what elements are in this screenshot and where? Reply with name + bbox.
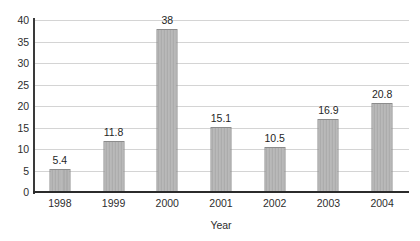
bar-value-label: 5.4 [53, 155, 68, 166]
x-axis-tick-label: 2004 [355, 197, 409, 210]
y-axis-tick-label: 40 [3, 15, 29, 25]
x-axis-tick-label: 1998 [33, 197, 87, 210]
bar[interactable] [103, 141, 124, 192]
bar[interactable] [210, 127, 231, 192]
x-axis-tick-label: 2001 [194, 197, 248, 210]
bar-slot: 20.8 [355, 20, 409, 192]
y-axis-tick-label: 0 [3, 187, 29, 197]
bar-slot: 11.8 [87, 20, 141, 192]
bar[interactable] [157, 29, 178, 192]
plot-area: 5.411.83815.110.516.920.8 [33, 20, 409, 192]
bar-slot: 10.5 [248, 20, 302, 192]
y-axis-tick-label: 15 [3, 123, 29, 133]
y-axis-tick-label: 25 [3, 80, 29, 90]
bar-value-label: 16.9 [318, 105, 338, 116]
bar-value-label: 15.1 [211, 113, 231, 124]
bar-chart: 5.411.83815.110.516.920.8 40353025201510… [0, 0, 420, 241]
bar-value-label: 38 [161, 15, 173, 26]
bar[interactable] [49, 169, 70, 192]
bar-value-label: 20.8 [372, 89, 392, 100]
bar-value-label: 10.5 [264, 133, 284, 144]
bar-slot: 15.1 [194, 20, 248, 192]
bar[interactable] [264, 147, 285, 192]
x-axis-tick-label: 2002 [248, 197, 302, 210]
y-axis-tick-label: 20 [3, 101, 29, 111]
bar[interactable] [318, 119, 339, 192]
y-axis-tick-label: 5 [3, 166, 29, 176]
x-axis-tick-label: 1999 [87, 197, 141, 210]
x-axis-title: Year [33, 219, 409, 231]
x-axis-tick-label: 2003 [302, 197, 356, 210]
bar-slot: 16.9 [302, 20, 356, 192]
y-axis-line [33, 18, 35, 194]
y-axis-tick-labels: 4035302520151050 [0, 20, 29, 192]
bar-value-label: 11.8 [104, 127, 124, 138]
y-axis-tick-label: 35 [3, 37, 29, 47]
y-axis-tick-label: 10 [3, 144, 29, 154]
bar[interactable] [372, 103, 393, 192]
y-axis-tick-label: 30 [3, 58, 29, 68]
bar-slot: 5.4 [33, 20, 87, 192]
x-axis-tick-label: 2000 [140, 197, 194, 210]
x-axis-line [33, 191, 409, 193]
x-axis-tick-labels: 1998199920002001200220032004 [33, 197, 409, 215]
bar-slot: 38 [140, 20, 194, 192]
